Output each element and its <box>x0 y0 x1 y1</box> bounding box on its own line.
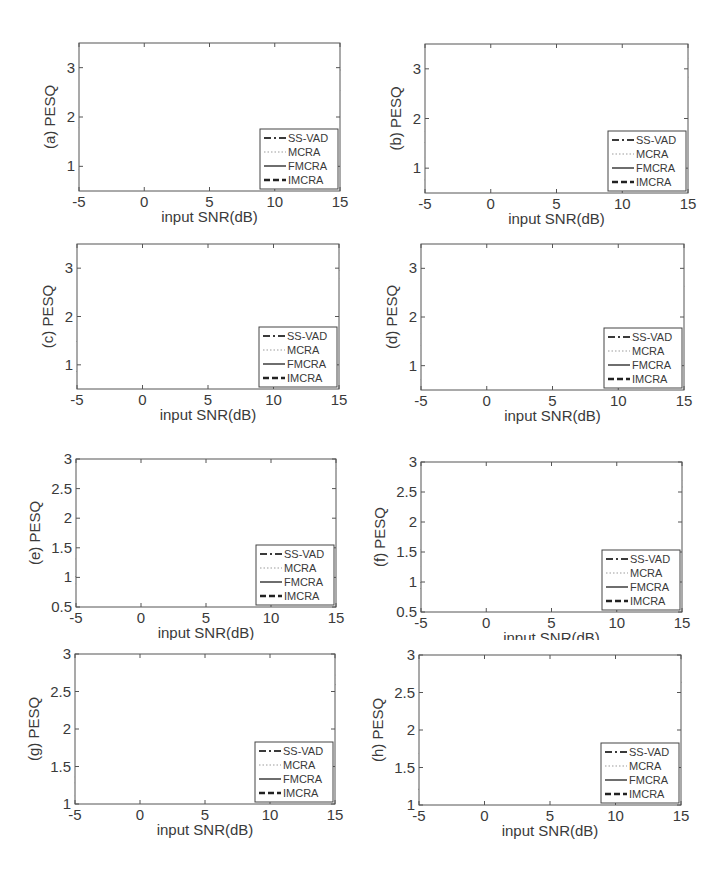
x-tick-label: 15 <box>673 807 690 824</box>
x-tick-label: 10 <box>614 195 631 212</box>
legend: SS-VADMCRAFMCRAIMCRA <box>256 545 334 605</box>
legend-entry-ss-vad: SS-VAD <box>632 331 672 343</box>
x-axis-label: input SNR(dB) <box>504 407 601 424</box>
y-tick-label: 2.5 <box>50 683 71 700</box>
y-tick-label: 1 <box>65 356 73 373</box>
y-tick-label: 0.5 <box>51 598 72 615</box>
y-axis-label: (h) PESQ <box>369 698 386 762</box>
y-axis-label: (f) PESQ <box>371 507 388 567</box>
y-tick-label: 3 <box>65 259 73 276</box>
x-tick-label: 10 <box>608 614 625 631</box>
legend-entry-fmcra: FMCRA <box>288 160 328 172</box>
y-axis-label: (g) PESQ <box>25 697 42 761</box>
legend-entry-imcra: IMCRA <box>283 787 319 799</box>
legend-entry-ss-vad: SS-VAD <box>287 330 327 342</box>
legend: SS-VADMCRAFMCRAIMCRA <box>601 743 679 803</box>
legend-entry-imcra: IMCRA <box>288 174 324 186</box>
legend-entry-ss-vad: SS-VAD <box>630 553 670 565</box>
y-tick-label: 1.5 <box>51 539 72 556</box>
y-tick-label: 1.5 <box>50 758 71 775</box>
y-tick-label: 1 <box>64 568 72 585</box>
y-tick-label: 1.5 <box>394 759 415 776</box>
x-axis-label: input SNR(dB) <box>503 629 600 640</box>
x-tick-label: 10 <box>262 806 279 823</box>
y-tick-label: 3 <box>407 646 415 663</box>
x-tick-label: -5 <box>414 392 427 409</box>
legend-entry-mcra: MCRA <box>630 567 663 579</box>
x-tick-label: 15 <box>331 391 348 408</box>
plot-svg: -5051015123input SNR(dB)(b) PESQSS-VADMC… <box>360 30 721 230</box>
plot-svg: -5051015123input SNR(dB)(d) PESQSS-VADMC… <box>360 230 721 430</box>
x-tick-label: -5 <box>72 193 85 210</box>
x-tick-label: 15 <box>676 392 693 409</box>
y-tick-label: 2.5 <box>396 483 417 500</box>
y-tick-label: 3 <box>409 259 417 276</box>
legend-entry-imcra: IMCRA <box>284 590 320 602</box>
legend-entry-fmcra: FMCRA <box>632 359 672 371</box>
x-tick-label: 0 <box>136 806 144 823</box>
plot-svg: -5051015123input SNR(dB)(a) PESQSS-VADMC… <box>0 30 360 230</box>
x-tick-label: 10 <box>265 391 282 408</box>
y-tick-label: 2 <box>67 108 75 125</box>
legend-entry-mcra: MCRA <box>288 146 321 158</box>
x-tick-label: 10 <box>607 807 624 824</box>
y-tick-label: 2 <box>409 308 417 325</box>
legend-entry-fmcra: FMCRA <box>287 358 327 370</box>
plot-svg: -505101511.522.53input SNR(dB)(g) PESQSS… <box>0 640 360 840</box>
x-tick-label: -5 <box>70 391 83 408</box>
x-tick-label: 0 <box>480 807 488 824</box>
x-tick-label: 15 <box>327 806 344 823</box>
y-tick-label: 1.5 <box>396 543 417 560</box>
legend-entry-ss-vad: SS-VAD <box>284 548 324 560</box>
y-tick-label: 2 <box>64 509 72 526</box>
legend: SS-VADMCRAFMCRAIMCRA <box>259 327 337 387</box>
x-axis-label: input SNR(dB) <box>502 822 599 839</box>
legend: SS-VADMCRAFMCRAIMCRA <box>260 129 338 189</box>
legend-entry-imcra: IMCRA <box>629 788 665 800</box>
x-tick-label: 0 <box>482 614 490 631</box>
legend-entry-mcra: MCRA <box>287 344 320 356</box>
x-axis-label: input SNR(dB) <box>508 210 605 227</box>
y-tick-label: 2.5 <box>394 684 415 701</box>
legend-entry-mcra: MCRA <box>283 759 316 771</box>
subplot-f: -50510150.511.522.53input SNR(dB)(f) PES… <box>360 440 721 640</box>
x-tick-label: 15 <box>680 195 697 212</box>
legend-entry-fmcra: FMCRA <box>283 773 323 785</box>
y-axis-label: (a) PESQ <box>41 85 58 149</box>
legend: SS-VADMCRAFMCRAIMCRA <box>255 742 333 802</box>
x-tick-label: 10 <box>610 392 627 409</box>
legend-entry-fmcra: FMCRA <box>629 774 669 786</box>
x-axis-label: input SNR(dB) <box>158 624 255 640</box>
x-tick-label: 0 <box>487 195 495 212</box>
y-axis-label: (e) PESQ <box>26 501 43 565</box>
legend: SS-VADMCRAFMCRAIMCRA <box>602 550 680 610</box>
subplot-h: -505101511.522.53input SNR(dB)(h) PESQSS… <box>360 640 721 840</box>
legend-entry-mcra: MCRA <box>632 345 665 357</box>
y-tick-label: 0.5 <box>396 603 417 620</box>
y-axis-label: (b) PESQ <box>387 86 404 150</box>
legend-entry-fmcra: FMCRA <box>630 581 670 593</box>
y-tick-label: 3 <box>413 60 421 77</box>
x-axis-label: input SNR(dB) <box>161 208 258 225</box>
x-tick-label: 0 <box>137 609 145 626</box>
x-tick-label: 15 <box>332 193 349 210</box>
plot-svg: -50510150.511.522.53input SNR(dB)(f) PES… <box>360 440 721 640</box>
x-tick-label: 15 <box>674 614 691 631</box>
legend: SS-VADMCRAFMCRAIMCRA <box>604 328 682 388</box>
y-tick-label: 1 <box>413 159 421 176</box>
subplot-c: -5051015123input SNR(dB)(c) PESQSS-VADMC… <box>0 230 360 430</box>
plot-svg: -5051015123input SNR(dB)(c) PESQSS-VADMC… <box>0 230 360 430</box>
legend-entry-mcra: MCRA <box>636 148 669 160</box>
y-tick-label: 1 <box>67 157 75 174</box>
x-tick-label: 0 <box>483 392 491 409</box>
plot-svg: -505101511.522.53input SNR(dB)(h) PESQSS… <box>360 640 721 840</box>
subplot-a: -5051015123input SNR(dB)(a) PESQSS-VADMC… <box>0 30 360 230</box>
y-tick-label: 2.5 <box>51 480 72 497</box>
x-tick-label: 0 <box>140 193 148 210</box>
y-tick-label: 3 <box>67 59 75 76</box>
legend: SS-VADMCRAFMCRAIMCRA <box>608 131 686 191</box>
y-tick-label: 2 <box>407 721 415 738</box>
x-tick-label: 15 <box>328 609 345 626</box>
subplot-e: -50510150.511.522.53input SNR(dB)(e) PES… <box>0 440 360 640</box>
legend-entry-imcra: IMCRA <box>632 373 668 385</box>
